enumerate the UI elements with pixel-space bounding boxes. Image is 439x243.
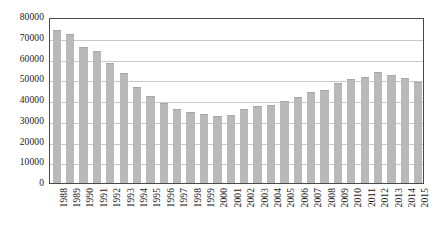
x-axis-tick-label: 2015 xyxy=(421,188,431,207)
bar xyxy=(334,83,342,183)
bar xyxy=(133,87,141,183)
y-axis-tick-label: 50000 xyxy=(20,76,44,86)
bar xyxy=(79,47,87,183)
bar xyxy=(347,79,355,183)
bar xyxy=(240,109,248,183)
x-axis-tick-label: 2000 xyxy=(220,188,230,207)
x-axis-tick-label: 1997 xyxy=(180,188,190,207)
x-axis-tick-label: 2002 xyxy=(247,188,257,207)
y-axis: 0100002000030000400005000060000700008000… xyxy=(0,0,44,243)
y-axis-tick-label: 10000 xyxy=(20,159,44,169)
bar xyxy=(200,114,208,183)
bar xyxy=(53,30,61,183)
x-axis-tick-label: 2006 xyxy=(301,188,311,207)
bar xyxy=(186,112,194,183)
x-axis-tick-label: 1991 xyxy=(100,188,110,207)
x-axis-tick-label: 2003 xyxy=(261,188,271,207)
x-axis-tick-label: 2004 xyxy=(274,188,284,207)
x-axis-tick-label: 2010 xyxy=(354,188,364,207)
bar xyxy=(253,106,261,183)
bar xyxy=(120,73,128,183)
x-axis-tick-label: 2014 xyxy=(408,188,418,207)
x-axis-tick-label: 1994 xyxy=(140,188,150,207)
bar-chart: 0100002000030000400005000060000700008000… xyxy=(0,0,439,243)
bar xyxy=(320,90,328,183)
bar xyxy=(294,97,302,183)
bar xyxy=(106,63,114,183)
x-axis-tick-label: 1993 xyxy=(127,188,137,207)
y-axis-tick-label: 0 xyxy=(39,179,44,189)
bar xyxy=(307,92,315,183)
y-axis-tick-label: 80000 xyxy=(20,13,44,23)
bar xyxy=(387,75,395,183)
bar xyxy=(173,109,181,183)
x-axis-tick-label: 1992 xyxy=(113,188,123,207)
x-axis-tick-label: 1995 xyxy=(153,188,163,207)
bar xyxy=(280,101,288,183)
x-axis-tick-label: 1990 xyxy=(86,188,96,207)
bar xyxy=(213,116,221,183)
x-axis-tick-label: 2013 xyxy=(395,188,405,207)
x-axis-tick-label: 1999 xyxy=(207,188,217,207)
x-axis: 1988198919901991199219931994199519961997… xyxy=(49,184,424,243)
y-axis-tick-label: 70000 xyxy=(20,34,44,44)
x-axis-tick-label: 2007 xyxy=(314,188,324,207)
y-axis-tick-label: 60000 xyxy=(20,55,44,65)
x-axis-tick-label: 1998 xyxy=(194,188,204,207)
bar xyxy=(227,115,235,183)
x-axis-tick-label: 2011 xyxy=(368,188,378,207)
y-axis-tick-label: 20000 xyxy=(20,138,44,148)
x-axis-tick-label: 1988 xyxy=(60,188,70,207)
plot-area xyxy=(49,18,424,184)
x-axis-tick-label: 2005 xyxy=(287,188,297,207)
bar xyxy=(374,72,382,183)
x-axis-tick-label: 1989 xyxy=(73,188,83,207)
bar xyxy=(414,82,422,183)
bar xyxy=(146,96,154,183)
bar xyxy=(160,103,168,183)
bar xyxy=(66,34,74,183)
bar xyxy=(361,77,369,183)
x-axis-tick-label: 2012 xyxy=(381,188,391,207)
x-axis-tick-label: 2001 xyxy=(234,188,244,207)
y-axis-tick-label: 30000 xyxy=(20,117,44,127)
y-axis-tick-label: 40000 xyxy=(20,96,44,106)
bar xyxy=(267,105,275,183)
x-axis-tick-label: 2008 xyxy=(328,188,338,207)
bar xyxy=(401,78,409,183)
bar xyxy=(93,51,101,183)
x-axis-tick-label: 2009 xyxy=(341,188,351,207)
x-axis-tick-label: 1996 xyxy=(167,188,177,207)
bars-layer xyxy=(50,19,423,183)
